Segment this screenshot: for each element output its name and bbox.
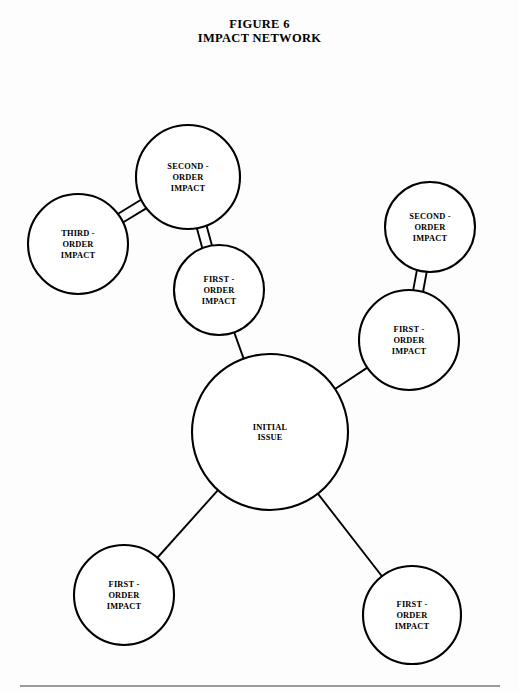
node-initial-issue[interactable]: INITIALISSUE bbox=[192, 354, 348, 510]
node-label-line: IMPACT bbox=[61, 251, 96, 260]
node-label-line: IMPACT bbox=[171, 184, 206, 193]
figure-root: FIGURE 6 IMPACT NETWORK INITIALISSUEFIRS… bbox=[0, 0, 519, 693]
node-label-line: ORDER bbox=[203, 286, 235, 295]
edge-double bbox=[197, 226, 212, 248]
edge-single bbox=[335, 368, 367, 389]
node-circle bbox=[192, 354, 348, 510]
node-first-order-bottom-left[interactable]: FIRST -ORDERIMPACT bbox=[74, 545, 174, 645]
node-label-line: IMPACT bbox=[107, 602, 142, 611]
edge-single bbox=[318, 494, 382, 577]
node-label-line: SECOND - bbox=[409, 212, 450, 221]
node-label-line: ORDER bbox=[108, 591, 140, 600]
node-second-order-upper-right[interactable]: SECOND -ORDERIMPACT bbox=[385, 182, 475, 272]
node-first-order-bottom-right[interactable]: FIRST -ORDERIMPACT bbox=[363, 566, 461, 664]
impact-network-diagram: INITIALISSUEFIRST -ORDERIMPACTFIRST -ORD… bbox=[0, 0, 519, 693]
node-label-line: ORDER bbox=[414, 223, 446, 232]
node-label-line: FIRST - bbox=[204, 275, 235, 284]
edge-single bbox=[157, 490, 218, 558]
node-label-line: INITIAL bbox=[253, 423, 288, 432]
node-label-line: THIRD - bbox=[61, 229, 95, 238]
node-second-order-upper-left[interactable]: SECOND -ORDERIMPACT bbox=[136, 125, 240, 229]
node-label-line: FIRST - bbox=[109, 580, 140, 589]
node-first-order-right[interactable]: FIRST -ORDERIMPACT bbox=[359, 290, 459, 390]
edge-single bbox=[234, 332, 243, 358]
node-label-line: ORDER bbox=[393, 336, 425, 345]
nodes-layer: INITIALISSUEFIRST -ORDERIMPACTFIRST -ORD… bbox=[28, 125, 475, 664]
node-label-line: ISSUE bbox=[257, 433, 282, 442]
node-third-order-left[interactable]: THIRD -ORDERIMPACT bbox=[28, 194, 128, 294]
node-label-line: SECOND - bbox=[167, 162, 208, 171]
node-label-line: FIRST - bbox=[394, 325, 425, 334]
node-label-line: IMPACT bbox=[413, 234, 448, 243]
node-label-line: ORDER bbox=[172, 173, 204, 182]
node-label-line: IMPACT bbox=[395, 622, 430, 631]
node-label-line: ORDER bbox=[396, 611, 428, 620]
node-label-line: IMPACT bbox=[202, 297, 237, 306]
node-label-line: ORDER bbox=[62, 240, 94, 249]
node-first-order-upper-left[interactable]: FIRST -ORDERIMPACT bbox=[174, 245, 264, 335]
node-label-line: IMPACT bbox=[392, 347, 427, 356]
edge-double bbox=[413, 270, 426, 291]
node-label-line: FIRST - bbox=[397, 600, 428, 609]
